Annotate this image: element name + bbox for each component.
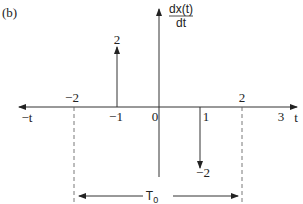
tick-label-1: 1 — [203, 109, 210, 124]
tick-label-2: 2 — [239, 90, 246, 105]
origin-label: 0 — [152, 109, 159, 124]
impulse-up-label: 2 — [114, 32, 121, 47]
neg-t-axis-label: −t — [22, 110, 33, 125]
impulse-diagram: (b) dx(t) dt 2 −2 −2 −1 0 1 2 3 t −t T0 — [0, 0, 303, 204]
tick-label-minus-2: −2 — [65, 90, 79, 105]
y-axis-label-numerator: dx(t) — [169, 2, 193, 16]
period-label: T0 — [146, 189, 158, 204]
t-axis-label: t — [294, 110, 298, 125]
tick-label-minus-1: −1 — [109, 109, 123, 124]
tick-label-3: 3 — [278, 109, 285, 124]
impulse-down-label: −2 — [196, 165, 210, 180]
y-axis-label-denominator: dt — [176, 16, 187, 30]
figure-label: (b) — [2, 5, 17, 20]
